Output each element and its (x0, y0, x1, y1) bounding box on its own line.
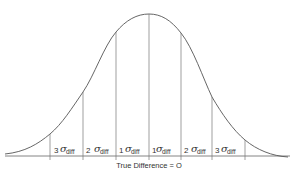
svg-text:3: 3 (215, 146, 220, 155)
segment-label-pos2: 2 σ diff (184, 143, 206, 155)
svg-text:2: 2 (86, 146, 91, 155)
svg-text:2: 2 (184, 146, 189, 155)
svg-text:diff: diff (131, 148, 140, 155)
svg-text:1: 1 (119, 146, 124, 155)
segment-label-pos3: 3 σ diff (215, 143, 236, 155)
caption-true-difference: True Difference = O (116, 161, 182, 170)
normal-curve-diagram: 3 σ diff 2 σ diff 1 σ diff 1 σ diff 2 σ … (0, 0, 295, 174)
svg-text:3: 3 (54, 146, 59, 155)
segment-label-neg1: 1 σ diff (119, 143, 140, 155)
svg-text:diff: diff (66, 148, 75, 155)
bell-curve (5, 14, 288, 157)
svg-text:diff: diff (100, 148, 109, 155)
svg-text:diff: diff (162, 148, 171, 155)
segment-label-neg2: 2 σ diff (86, 143, 109, 155)
svg-text:diff: diff (197, 148, 206, 155)
segment-label-pos1: 1 σ diff (152, 143, 171, 155)
segment-label-neg3: 3 σ diff (54, 143, 75, 155)
svg-text:diff: diff (227, 148, 236, 155)
